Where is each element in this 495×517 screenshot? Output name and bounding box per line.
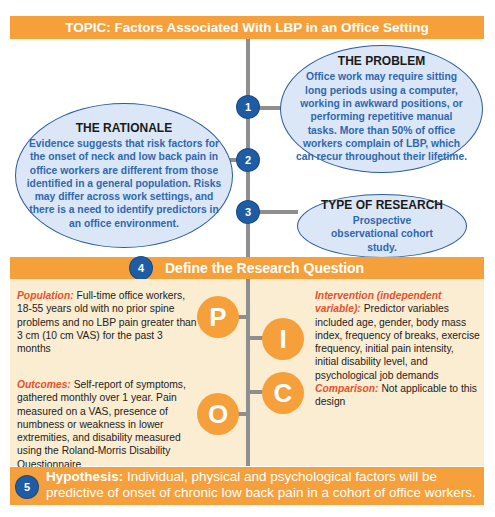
hypothesis-label: Hypothesis:: [46, 469, 123, 484]
rationale-title: THE RATIONALE: [76, 121, 172, 135]
comparison-block: Comparison: Not applicable to this desig…: [315, 382, 480, 409]
population-label: Population:: [17, 290, 74, 301]
comparison-label: Comparison:: [315, 383, 379, 394]
step-number-1: 1: [237, 96, 259, 118]
population-block: Population: Full-time office workers, 18…: [17, 289, 197, 355]
hypothesis-block: Hypothesis: Individual, physical and psy…: [46, 469, 482, 501]
intervention-text: Predictor variables included age, gender…: [315, 303, 480, 380]
rationale-ellipse: THE RATIONALE Evidence suggests that ris…: [15, 103, 233, 248]
pico-circle-i: I: [262, 318, 304, 360]
rationale-body: Evidence suggests that risk factors for …: [26, 137, 222, 230]
step-number-3: 3: [237, 201, 259, 223]
pico-circle-p: P: [197, 296, 239, 338]
research-question-title: Define the Research Question: [165, 257, 364, 279]
pico-circle-c: C: [262, 372, 304, 414]
pico-connector: [246, 279, 250, 466]
research-question-banner: 4 Define the Research Question: [10, 257, 484, 279]
problem-title: THE PROBLEM: [338, 54, 425, 68]
step-number-2: 2: [237, 149, 259, 171]
research-type-title: TYPE OF RESEARCH: [321, 198, 443, 212]
research-type-ellipse: TYPE OF RESEARCH Prospective observation…: [297, 194, 467, 258]
problem-ellipse: THE PROBLEM Office work may require sitt…: [280, 45, 483, 173]
problem-body: Office work may require sitting long per…: [295, 70, 468, 163]
outcomes-block: Outcomes: Self-report of symptoms, gathe…: [17, 378, 197, 471]
intervention-block: Intervention (independent variable): Pre…: [315, 289, 480, 382]
step-number-5: 5: [16, 476, 38, 498]
step-number-4: 4: [130, 257, 152, 279]
topic-banner: TOPIC: Factors Associated With LBP in an…: [10, 16, 484, 39]
outcomes-text: Self-report of symptoms, gathered monthl…: [17, 379, 186, 470]
outcomes-label: Outcomes:: [17, 379, 71, 390]
research-type-body: Prospective observational cohort study.: [318, 214, 446, 254]
pico-circle-o: O: [197, 393, 239, 435]
